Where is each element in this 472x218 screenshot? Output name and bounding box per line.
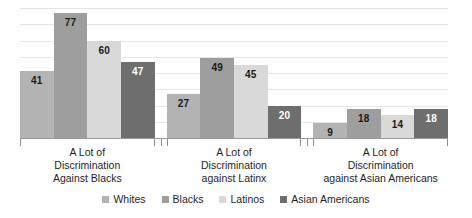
bar[interactable]: 47 — [121, 62, 155, 138]
category-label-line: against Asian Americans — [305, 172, 456, 185]
bar-value-label: 41 — [20, 75, 54, 86]
bar[interactable]: 14 — [381, 115, 415, 138]
plot-area: 41776047274945209181418 — [20, 8, 448, 138]
bar[interactable]: 20 — [268, 106, 302, 139]
bar[interactable]: 27 — [167, 94, 201, 138]
category-label-line: Discrimination — [12, 159, 163, 172]
category-label-line: Discrimination — [159, 159, 310, 172]
category-separator-tick — [161, 139, 162, 146]
bar[interactable]: 41 — [20, 71, 54, 138]
category-bracket — [20, 139, 155, 146]
category-label: A Lot ofDiscriminationagainst Latinx — [159, 146, 310, 185]
bar-value-label: 9 — [313, 127, 347, 138]
category-label-line: Discrimination — [305, 159, 456, 172]
bar[interactable]: 9 — [313, 123, 347, 138]
bar[interactable]: 77 — [54, 13, 88, 138]
legend-item[interactable]: Latinos — [219, 193, 264, 205]
legend-label: Latinos — [230, 193, 264, 205]
chart-legend: WhitesBlacksLatinosAsian Americans — [0, 193, 472, 205]
category-label: A Lot ofDiscriminationagainst Asian Amer… — [305, 146, 456, 185]
legend-item[interactable]: Blacks — [162, 193, 204, 205]
legend-swatch-icon — [102, 196, 109, 203]
category-separator-tick — [307, 139, 308, 146]
legend-label: Blacks — [173, 193, 204, 205]
bar-value-label: 18 — [347, 113, 381, 124]
category-label-line: A Lot of — [159, 146, 310, 159]
category-label-line: A Lot of — [12, 146, 163, 159]
category-label-line: A Lot of — [305, 146, 456, 159]
bar[interactable]: 49 — [200, 58, 234, 138]
category-labels: A Lot ofDiscriminationAgainst BlacksA Lo… — [20, 146, 448, 188]
bar-value-label: 14 — [381, 119, 415, 130]
legend-swatch-icon — [280, 196, 287, 203]
bar-value-label: 47 — [121, 66, 155, 77]
legend-item[interactable]: Whites — [102, 193, 145, 205]
legend-item[interactable]: Asian Americans — [280, 193, 369, 205]
bar[interactable]: 18 — [414, 109, 448, 138]
bar[interactable]: 18 — [347, 109, 381, 138]
legend-label: Whites — [113, 193, 145, 205]
legend-label: Asian Americans — [291, 193, 369, 205]
bar[interactable]: 45 — [234, 65, 268, 138]
bar[interactable]: 60 — [87, 41, 121, 139]
legend-swatch-icon — [162, 196, 169, 203]
bar-value-label: 60 — [87, 45, 121, 56]
category-bracket — [313, 139, 448, 146]
category-label-line: against Latinx — [159, 172, 310, 185]
legend-swatch-icon — [219, 196, 226, 203]
bar-value-label: 18 — [414, 113, 448, 124]
grouped-bar-chart: 41776047274945209181418 A Lot ofDiscrimi… — [0, 0, 472, 218]
bar-value-label: 20 — [268, 110, 302, 121]
category-label-line: Against Blacks — [12, 172, 163, 185]
category-label: A Lot ofDiscriminationAgainst Blacks — [12, 146, 163, 185]
category-bracket — [167, 139, 302, 146]
bar-value-label: 27 — [167, 98, 201, 109]
bar-value-label: 49 — [200, 62, 234, 73]
bar-value-label: 77 — [54, 17, 88, 28]
bars-layer: 41776047274945209181418 — [20, 8, 448, 138]
bar-value-label: 45 — [234, 69, 268, 80]
